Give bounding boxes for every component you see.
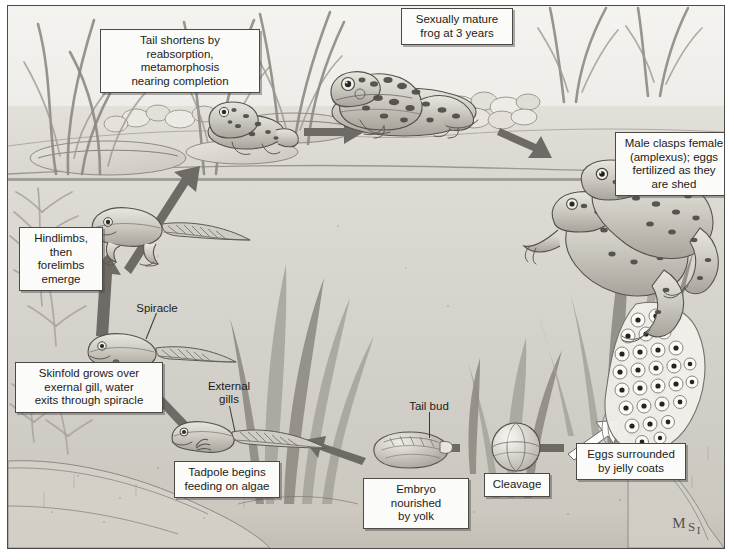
frog-life-cycle-figure: Spiracle External gills Tail bud Tail sh… — [0, 0, 734, 560]
artist-signature: MSI — [672, 515, 698, 532]
signature-letter-s: S — [688, 519, 696, 534]
label-amplexus[interactable]: Male clasps female (amplexus); eggs fert… — [615, 132, 725, 196]
arrow-adult-to-amplexus — [497, 128, 552, 158]
label-tadpole-feeding[interactable]: Tadpole begins feeding on algae — [174, 461, 280, 498]
tadpole-with-external-gills-illustration — [164, 410, 330, 466]
tail-bud-shape — [440, 441, 453, 453]
label-cleavage[interactable]: Cleavage — [484, 473, 550, 497]
illustration-plate: Spiracle External gills Tail bud Tail sh… — [7, 5, 725, 549]
annotation-external-gills: External gills — [193, 380, 265, 406]
signature-letter-i: I — [697, 524, 701, 536]
cleavage-stage-illustration — [486, 418, 546, 476]
label-embryo-yolk[interactable]: Embryo nourished by yolk — [363, 478, 469, 529]
annotation-spiracle: Spiracle — [122, 302, 192, 315]
tadpole-with-limbs-illustration — [82, 198, 258, 266]
embryo-with-tail-bud-illustration — [364, 426, 456, 474]
annotation-tail-bud: Tail bud — [398, 400, 460, 413]
froglet-with-short-tail-illustration — [176, 84, 306, 166]
label-skinfold[interactable]: Skinfold grows over exernal gill, water … — [15, 362, 163, 413]
signature-letter-m: M — [672, 515, 686, 531]
label-hindlimbs[interactable]: Hindlimbs, then forelimbs emerge — [19, 227, 103, 291]
label-tail-shortens[interactable]: Tail shortens by reabsorption, metamorph… — [100, 29, 260, 93]
tail-bud-leader-line — [429, 412, 430, 438]
label-eggs-jelly[interactable]: Eggs surrounded by jelly coats — [576, 443, 686, 480]
adult-frog-illustration — [300, 46, 490, 138]
label-sexually-mature[interactable]: Sexually mature frog at 3 years — [401, 8, 513, 45]
